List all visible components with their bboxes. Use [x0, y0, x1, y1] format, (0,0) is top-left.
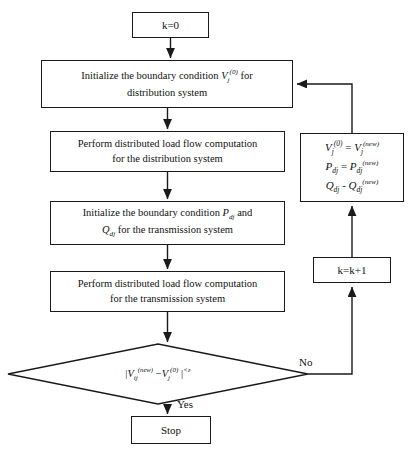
node-initialize-distribution[interactable]: Initialize the boundary condition Vj(0) … [41, 60, 293, 108]
eq3-rhs-var: Q [349, 179, 357, 191]
flowchart-canvas: k=0 Initialize the boundary condition Vj… [0, 0, 418, 461]
eq2-lhs-sub: dj [332, 166, 338, 175]
node-stop[interactable]: Stop [131, 416, 211, 444]
node-loadflow-transmission-text: Perform distributed load flow computatio… [74, 277, 262, 305]
update-equation-3: Qdj - Qdj(new) [325, 177, 379, 196]
edge-label-no: No [299, 356, 312, 368]
eq3-lhs-sub: dj [334, 185, 340, 194]
decision-var2-sup: (0) [170, 366, 178, 374]
init-dist-variable-superscript: (0) [230, 68, 238, 76]
eq1-lhs-sup: (0) [334, 139, 343, 148]
eq1-rhs-sup: (new) [363, 140, 379, 148]
lf-tx-line1: Perform distributed load flow computatio… [78, 277, 258, 291]
node-increment-counter-label: k=k+1 [334, 263, 371, 278]
lf-tx-line2: for the transmission system [78, 292, 258, 306]
init-dist-line1-post: for [238, 70, 253, 81]
eq3-operator: - [342, 179, 346, 191]
node-convergence-decision[interactable]: |Vij(new) −Vj(0) |<ε [8, 344, 308, 404]
node-initialize-distribution-text: Initialize the boundary condition Vj(0) … [77, 68, 257, 99]
node-loadflow-transmission[interactable]: Perform distributed load flow computatio… [50, 271, 285, 312]
eq3-rhs-sub: dj [357, 185, 363, 194]
node-start-label: k=0 [158, 18, 183, 33]
eq2-rhs-var: P [350, 160, 357, 172]
lf-dist-line2: for the distribution system [78, 152, 258, 166]
node-start[interactable]: k=0 [132, 12, 209, 38]
node-update-assignments[interactable]: Vj(0) = Vj(new) Pdj = Pdj(new) Qdj - Qdj… [300, 133, 404, 202]
init-tx-line1-pre: Initialize the boundary condition [83, 207, 223, 218]
connector-decision-no-to-increment [308, 287, 352, 374]
eq3-lhs-var: Q [326, 179, 334, 191]
eq2-operator: = [341, 160, 347, 172]
init-dist-line2: distribution system [81, 86, 253, 100]
eq2-rhs-sup: (new) [362, 159, 378, 167]
init-tx-variable-q: Q [102, 224, 110, 235]
decision-var1-sup: (new) [138, 366, 153, 373]
node-update-assignments-text: Vj(0) = Vj(new) Pdj = Pdj(new) Qdj - Qdj… [321, 139, 383, 195]
update-equation-1: Vj(0) = Vj(new) [325, 139, 379, 158]
decision-var1-sub: ij [134, 374, 138, 382]
lf-dist-line1: Perform distributed load flow computatio… [78, 137, 258, 151]
init-dist-variable-subscript: j [228, 76, 230, 84]
init-dist-line1-pre: Initialize the boundary condition [81, 70, 221, 81]
node-increment-counter[interactable]: k=k+1 [313, 257, 391, 283]
decision-epsilon: ε [188, 366, 191, 374]
node-loadflow-distribution-text: Perform distributed load flow computatio… [74, 137, 262, 165]
node-initialize-transmission-text: Initialize the boundary condition Pdj an… [79, 206, 257, 239]
node-loadflow-distribution[interactable]: Perform distributed load flow computatio… [50, 131, 285, 172]
eq1-lhs-sub: j [332, 147, 334, 156]
eq1-rhs-sub: j [361, 147, 363, 156]
node-initialize-transmission[interactable]: Initialize the boundary condition Pdj an… [50, 201, 285, 245]
init-tx-line2-post: for the transmission system [115, 224, 233, 235]
node-convergence-decision-text: |Vij(new) −Vj(0) |<ε [8, 344, 308, 404]
edge-label-yes: Yes [177, 398, 193, 410]
eq3-rhs-sup: (new) [362, 178, 378, 186]
connector-update-to-init-dist [297, 84, 352, 133]
eq1-rhs-var: V [354, 141, 361, 153]
decision-var2-sub: j [168, 374, 170, 382]
eq1-operator: = [345, 141, 351, 153]
node-stop-label: Stop [157, 423, 185, 438]
update-equation-2: Pdj = Pdj(new) [325, 158, 379, 177]
eq1-lhs-var: V [325, 141, 332, 153]
eq2-rhs-sub: dj [357, 166, 363, 175]
init-tx-line1-post: and [235, 207, 253, 218]
